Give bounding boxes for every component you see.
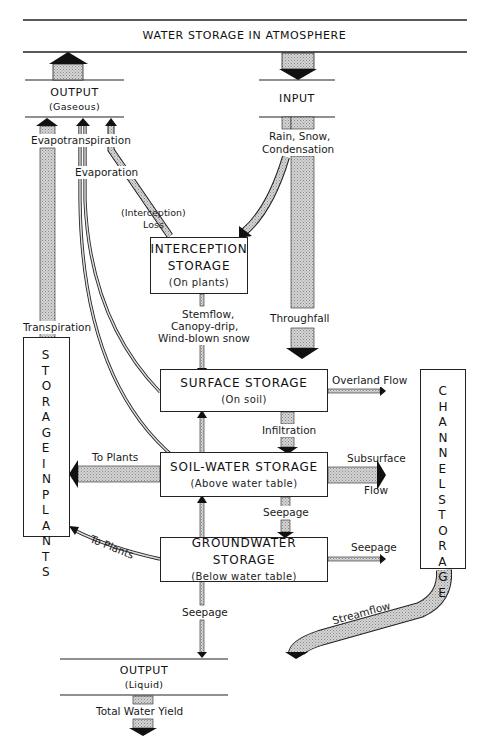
output-liquid-subtitle: (Liquid): [60, 679, 228, 690]
output-gaseous-title: OUTPUT: [25, 86, 124, 99]
input-down-arrow: [279, 53, 317, 80]
storage-in-plants-word1: STORAGE: [42, 348, 51, 457]
label-rain-snow-line1: Rain, Snow,: [268, 130, 331, 143]
label-evapotranspiration: Evapotranspiration: [30, 134, 132, 147]
vertical-letter: O: [42, 379, 51, 395]
storage-in-plants-box: STORAGE IN PLANTS: [23, 337, 70, 537]
atmosphere-title: WATER STORAGE IN ATMOSPHERE: [0, 29, 489, 42]
vertical-letter: A: [42, 410, 51, 426]
vertical-letter: N: [42, 534, 51, 550]
label-throughfall: Throughfall: [269, 312, 331, 325]
label-subsurface-line1: Subsurface: [346, 452, 407, 465]
label-evaporation: Evaporation: [74, 166, 139, 179]
label-seepage-down: Seepage: [181, 606, 229, 619]
vertical-letter: S: [42, 348, 51, 364]
vertical-letter: R: [42, 395, 51, 411]
vertical-letter: S: [42, 565, 51, 581]
vertical-letter: E: [438, 586, 447, 602]
label-to-plants-soil: To Plants: [91, 451, 139, 464]
evapotranspiration-arrowheads: [36, 118, 117, 126]
interception-storage-box: INTERCEPTION STORAGE (On plants): [150, 237, 248, 294]
surface-storage-subtitle: (On soil): [221, 392, 267, 407]
interception-storage-subtitle: (On plants): [169, 275, 229, 290]
soil-water-storage-box: SOIL-WATER STORAGE (Above water table): [160, 452, 328, 497]
vertical-letter: A: [438, 415, 447, 431]
label-seepage-soil-to-ground: Seepage: [262, 506, 310, 519]
label-interception-loss-line2: Loss: [142, 218, 165, 231]
soil-to-surface-flow: [197, 410, 207, 455]
interception-storage-title2: STORAGE: [168, 258, 231, 275]
label-infiltration: Infiltration: [261, 424, 317, 437]
vertical-letter: L: [42, 503, 51, 519]
vertical-letter: A: [42, 519, 51, 535]
vertical-letter: G: [42, 426, 51, 442]
label-stemflow-line3: Wind-blown snow: [157, 332, 251, 345]
vertical-letter: O: [438, 524, 447, 540]
surface-storage-title: SURFACE STORAGE: [180, 375, 307, 392]
seepage-to-channel-flow: [328, 554, 386, 564]
channel-storage-box: CHANNEL STORAGE: [420, 369, 466, 569]
label-total-water-yield: Total Water Yield: [95, 705, 184, 718]
output-gaseous-up-arrow: [49, 52, 88, 80]
overland-flow: [328, 386, 386, 396]
channel-storage-word1: CHANNEL: [438, 384, 447, 493]
storage-in-plants-word2: IN: [42, 457, 51, 488]
groundwater-storage-subtitle: (Below water table): [191, 569, 297, 584]
vertical-letter: G: [438, 570, 447, 586]
label-overland-flow: Overland Flow: [331, 374, 408, 387]
groundwater-storage-title: GROUNDWATER STORAGE: [161, 535, 327, 569]
vertical-letter: H: [438, 400, 447, 416]
vertical-letter: I: [42, 457, 51, 473]
output-gaseous-subtitle: (Gaseous): [25, 101, 124, 112]
vertical-letter: N: [438, 431, 447, 447]
vertical-letter: E: [438, 462, 447, 478]
vertical-letter: L: [438, 477, 447, 493]
soil-water-storage-title: SOIL-WATER STORAGE: [170, 459, 318, 476]
seepage-down-flow: [197, 580, 207, 658]
surface-storage-box: SURFACE STORAGE (On soil): [160, 369, 328, 412]
vertical-letter: T: [438, 508, 447, 524]
input-title: INPUT: [259, 92, 335, 105]
groundwater-storage-box: GROUNDWATER STORAGE (Below water table): [160, 537, 328, 582]
vertical-letter: T: [42, 364, 51, 380]
vertical-letter: A: [438, 555, 447, 571]
vertical-letter: P: [42, 488, 51, 504]
label-rain-snow-line2: Condensation: [261, 143, 335, 156]
streamflow-arrowhead: [285, 652, 308, 659]
output-liquid-title: OUTPUT: [60, 664, 228, 677]
storage-in-plants-word3: PLANTS: [42, 488, 51, 581]
groundwater-to-soil-flow: [197, 495, 207, 538]
transpiration-flow-lower: [40, 148, 55, 338]
label-transpiration: Transpiration: [22, 321, 92, 334]
channel-storage-word2: STORAGE: [438, 493, 447, 602]
vertical-letter: N: [438, 446, 447, 462]
vertical-letter: N: [42, 472, 51, 488]
label-subsurface-line2: Flow: [363, 484, 389, 497]
label-seepage-to-channel: Seepage: [350, 541, 398, 554]
soil-water-storage-subtitle: (Above water table): [191, 476, 298, 491]
vertical-letter: E: [42, 441, 51, 457]
vertical-letter: T: [42, 550, 51, 566]
interception-storage-title1: INTERCEPTION: [150, 241, 247, 258]
vertical-letter: R: [438, 539, 447, 555]
vertical-letter: S: [438, 493, 447, 509]
to-plants-from-soil-flow: [69, 460, 160, 488]
vertical-letter: C: [438, 384, 447, 400]
